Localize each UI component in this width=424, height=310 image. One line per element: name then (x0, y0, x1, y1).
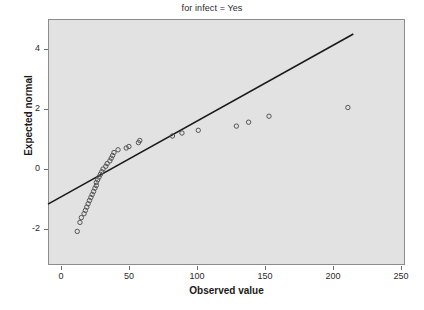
qq-plot-figure: for infect = Yes -2024 050100150200250 E… (0, 0, 424, 310)
x-tick-label: 150 (248, 271, 282, 281)
x-tick-mark (129, 266, 130, 270)
x-tick-label: 50 (112, 271, 146, 281)
plot-canvas (48, 19, 405, 265)
data-point (267, 114, 271, 118)
data-point (75, 229, 79, 233)
x-tick-label: 200 (316, 271, 350, 281)
x-tick-label: 250 (384, 271, 418, 281)
y-tick-label: -2 (14, 223, 40, 233)
data-point (246, 120, 250, 124)
y-axis-label: Expected normal (23, 46, 34, 186)
x-tick-label: 0 (44, 271, 78, 281)
data-point (196, 128, 200, 132)
x-tick-label: 100 (180, 271, 214, 281)
x-tick-mark (61, 266, 62, 270)
y-tick-mark (44, 49, 48, 50)
x-tick-mark (333, 266, 334, 270)
data-point (234, 124, 238, 128)
x-tick-mark (401, 266, 402, 270)
data-point (346, 105, 350, 109)
data-point (78, 220, 82, 224)
data-point (180, 131, 184, 135)
y-tick-mark (44, 169, 48, 170)
x-axis-label: Observed value (48, 285, 405, 296)
y-tick-mark (44, 229, 48, 230)
data-point (116, 148, 120, 152)
x-tick-mark (265, 266, 266, 270)
reference-line (48, 34, 353, 204)
x-tick-mark (197, 266, 198, 270)
y-tick-mark (44, 109, 48, 110)
chart-title: for infect = Yes (0, 3, 424, 13)
